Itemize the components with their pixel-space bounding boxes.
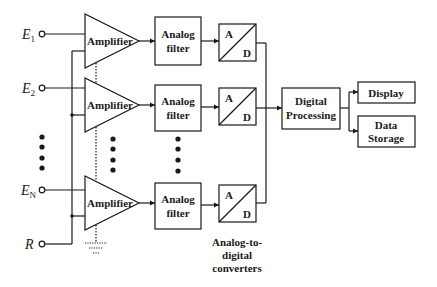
- filter-n-label: Analog: [161, 193, 195, 205]
- ellipsis-dots-amplifiers: [110, 136, 115, 172]
- input-terminal-r: [39, 241, 72, 247]
- filter-n-label-2: filter: [166, 207, 189, 219]
- processing-label-1: Digital: [295, 95, 327, 107]
- ellipsis-dots-filters: [175, 136, 180, 173]
- reference-bus: [72, 51, 85, 244]
- filter-1-label-2: filter: [166, 42, 189, 54]
- data-storage-label-1: Data: [375, 119, 398, 131]
- filter-1-label: Analog: [161, 28, 195, 40]
- processing-label-2: Processing: [286, 109, 336, 121]
- input-label-en: EN: [20, 183, 37, 200]
- biopotential-acquisition-diagram: E1 E2 EN R Amplifier Amplifier Amplifier…: [0, 0, 437, 287]
- adc-2-a: A: [225, 92, 233, 104]
- input-label-e1: E1: [21, 27, 35, 44]
- output-branch: [340, 92, 358, 131]
- digital-bus: [256, 43, 282, 203]
- analog-filter-1: [155, 17, 201, 65]
- adc-n-a: A: [225, 189, 233, 201]
- amplifier-n-label: Amplifier: [87, 197, 133, 209]
- input-terminal-en: [39, 187, 85, 193]
- adc-caption-line1: Analog-to-: [212, 236, 262, 248]
- filter-2-label: Analog: [161, 95, 195, 107]
- analog-filter-n: [155, 183, 201, 229]
- input-label-r: R: [24, 237, 34, 252]
- ellipsis-dots-inputs: [39, 134, 44, 170]
- filter-2-label-2: filter: [166, 109, 189, 121]
- input-terminal-e1: [39, 31, 85, 37]
- adc-1-a: A: [225, 28, 233, 40]
- amplifier-1-label: Amplifier: [87, 35, 133, 47]
- adc-n-d: D: [243, 208, 251, 220]
- adc-2-d: D: [243, 111, 251, 123]
- adc-caption-line2: digital: [222, 249, 252, 261]
- ground-icon: [85, 243, 107, 253]
- adc-caption-line3: converters: [212, 262, 262, 274]
- data-storage-label-2: Storage: [368, 132, 404, 144]
- analog-filter-2: [155, 85, 201, 131]
- input-label-e2: E2: [21, 81, 35, 98]
- adc-1-d: D: [243, 47, 251, 59]
- input-terminal-e2: [39, 85, 85, 91]
- amplifier-2-label: Amplifier: [87, 99, 133, 111]
- display-label: Display: [368, 87, 404, 99]
